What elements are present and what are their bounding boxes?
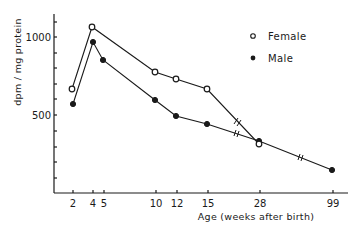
x-tick-label-15: 15: [202, 198, 215, 209]
female-point-12wk: [173, 76, 179, 82]
female-point-10wk: [152, 69, 158, 75]
x-tick-label-28: 28: [254, 198, 267, 209]
female-point-28wk: [256, 141, 262, 147]
x-axis: [54, 190, 348, 193]
legend-male-marker-icon: [251, 56, 256, 61]
x-tick-label-2: 2: [70, 198, 76, 209]
male-point-5wk: [100, 57, 105, 62]
y-axis-title: dpm / mg protein: [12, 18, 23, 105]
legend-female-label: Female: [268, 31, 307, 42]
male-point-2wk: [70, 101, 75, 106]
female-markers: [69, 24, 210, 92]
y-tick-label-1000: 1000: [26, 32, 51, 43]
male-point-99wk: [329, 167, 334, 172]
male-point-10wk: [152, 97, 157, 102]
female-point-2wk: [69, 86, 75, 92]
male-markers: [70, 39, 334, 172]
x-tick-label-4: 4: [90, 198, 96, 209]
x-tick-label-10: 10: [150, 198, 163, 209]
legend-female-marker-icon: [251, 34, 256, 39]
female-point-4wk: [89, 24, 95, 30]
x-tick-label-5: 5: [101, 198, 107, 209]
y-axis: [54, 14, 57, 193]
legend-male-label: Male: [268, 53, 293, 64]
x-tick-label-99: 99: [327, 198, 340, 209]
legend: Female Male: [251, 31, 307, 64]
female-series: [72, 27, 259, 144]
chart: 1000 500 2 4 5 10 12 15 28 99 Age (weeks…: [0, 0, 357, 227]
x-tick-label-12: 12: [171, 198, 184, 209]
male-point-15wk: [204, 121, 209, 126]
male-point-4wk: [90, 39, 95, 44]
x-axis-title: Age (weeks after birth): [198, 211, 314, 222]
female-point-15wk: [204, 86, 210, 92]
y-tick-label-500: 500: [32, 110, 51, 121]
male-point-12wk: [173, 113, 178, 118]
